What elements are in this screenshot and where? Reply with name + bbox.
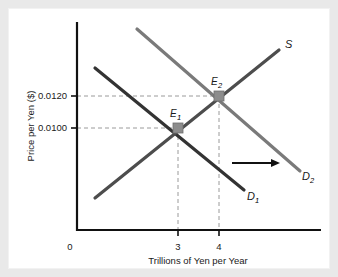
shift-arrow-icon [232,159,280,167]
x-tick-label-3: 3 [175,241,180,252]
demand-curve-1-label: D 1 [247,190,259,205]
figure-root: 0.0120 0.0100 0 3 4 Trillions of Yen per… [0,0,338,277]
equilibrium-label-e1-sub: 1 [177,113,181,122]
supply-curve-label: S [285,38,293,50]
x-axis-title: Trillions of Yen per Year [148,255,247,266]
equilibrium-label-e2: E 2 [211,76,223,90]
demand-curve-2-label: D 2 [302,170,315,185]
supply-demand-chart: 0.0120 0.0100 0 3 4 Trillions of Yen per… [8,8,330,269]
y-tick-label-low: 0.0100 [38,122,67,133]
y-axis-title: Price per Yen ($) [25,91,36,162]
equilibrium-label-e2-sub: 2 [217,81,223,90]
figure-plate: 0.0120 0.0100 0 3 4 Trillions of Yen per… [8,8,330,269]
x-tick-label-4: 4 [216,241,221,252]
demand-curve-2-label-text: D [302,170,310,182]
equilibrium-label-e1: E 1 [170,108,181,122]
equilibrium-label-e2-text: E [211,76,218,87]
supply-curve-label-text: S [285,38,293,50]
demand-curve-2-label-sub: 2 [309,176,315,185]
equilibrium-label-e1-text: E [170,108,177,119]
y-tick-label-high: 0.0120 [38,90,67,101]
demand-curve-1-label-text: D [247,190,255,202]
equilibrium-marker-e1 [173,123,183,133]
x-tick-label-origin: 0 [67,241,72,252]
equilibrium-marker-e2 [214,91,224,101]
demand-curve-1-label-sub: 1 [255,196,259,205]
